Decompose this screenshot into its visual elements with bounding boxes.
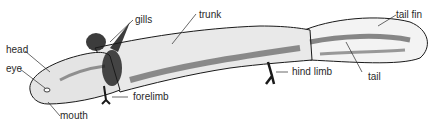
label-forelimb: forelimb bbox=[133, 92, 169, 102]
label-gills: gills bbox=[135, 15, 152, 25]
label-trunk: trunk bbox=[199, 10, 221, 20]
label-tail: tail bbox=[368, 72, 381, 82]
label-mouth: mouth bbox=[60, 111, 88, 121]
label-head: head bbox=[6, 45, 28, 55]
label-eye: eye bbox=[6, 64, 22, 74]
eye-drawing bbox=[44, 88, 50, 92]
label-tail-fin: tail fin bbox=[396, 10, 422, 20]
label-hind-limb: hind limb bbox=[292, 67, 332, 77]
hind-limb-drawing bbox=[266, 62, 274, 84]
